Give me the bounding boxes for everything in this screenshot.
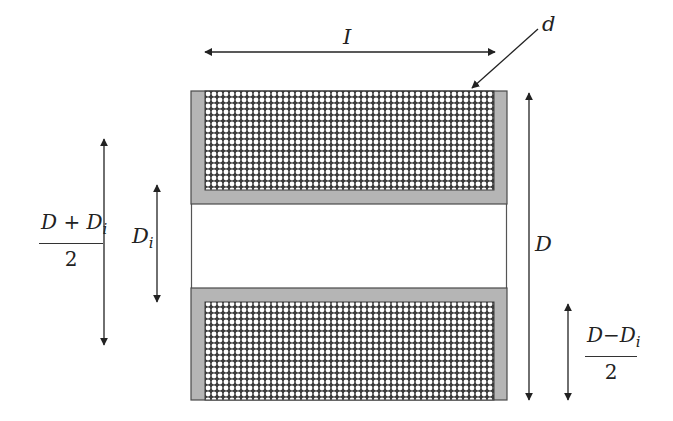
inner-diameter-label: Di (132, 226, 154, 251)
mean-diameter-numerator: D + Di (39, 211, 103, 240)
length-label: I (343, 27, 351, 48)
fraction-bar (585, 356, 637, 357)
bottom-winding (205, 302, 494, 400)
fraction-bar (39, 243, 103, 244)
mean-diameter-label: D + Di 2 (39, 211, 103, 270)
inner-diameter-sub: i (149, 234, 154, 252)
inner-bore (192, 203, 507, 289)
outer-diameter-label: D (535, 234, 552, 255)
bottom-bobbin-section (191, 288, 507, 400)
mean-diameter-denominator: 2 (39, 248, 103, 270)
top-bobbin-section (191, 91, 507, 204)
wire-diameter-leader (472, 29, 538, 88)
winding-depth-label: D−Di 2 (585, 324, 637, 383)
winding-depth-denominator: 2 (585, 361, 637, 383)
wire-diameter-label: d (542, 14, 555, 35)
top-winding (205, 91, 494, 190)
inner-diameter-main: D (132, 224, 149, 248)
winding-depth-numerator: D−Di (585, 324, 637, 353)
